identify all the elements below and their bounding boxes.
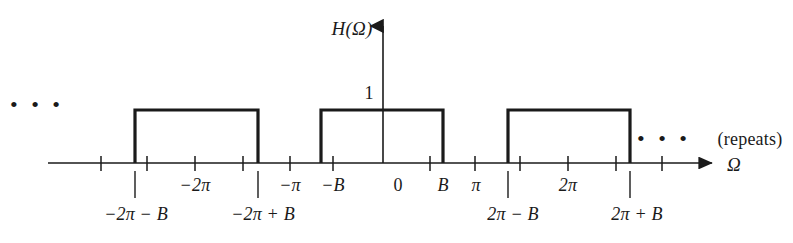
passband-rect-baseband xyxy=(321,110,443,163)
tick-label-origin: 0 xyxy=(393,176,402,194)
passband-rect-plus-2pi xyxy=(508,110,630,163)
tick-label-pi: π xyxy=(471,176,480,194)
tick-label-2pi: 2π xyxy=(559,176,577,194)
y-axis-title: H(Ω) xyxy=(332,19,373,38)
repeats-note: (repeats) xyxy=(718,130,783,148)
amplitude-label-one: 1 xyxy=(364,84,373,102)
passband-rect-minus-2pi xyxy=(135,110,258,163)
frequency-response-figure: H(Ω) Ω 1 −2π −π −B 0 B π 2π −2π − B −2π … xyxy=(0,0,793,243)
tick-label-minus-b: −B xyxy=(321,176,345,194)
tick-label-minus-2pi: −2π xyxy=(180,176,211,194)
ellipsis-left-icon: • • • xyxy=(10,94,64,116)
ellipsis-right-icon: • • • xyxy=(637,128,691,150)
edge-label-2pi-minus-b: 2π − B xyxy=(487,205,538,223)
edge-label-minus-2pi-minus-b: −2π − B xyxy=(104,205,168,223)
edge-label-2pi-plus-b: 2π + B xyxy=(611,205,662,223)
edge-label-minus-2pi-plus-b: −2π + B xyxy=(231,205,295,223)
tick-label-minus-pi: −π xyxy=(279,176,301,194)
x-axis-title: Ω xyxy=(727,155,741,174)
tick-label-b: B xyxy=(437,176,448,194)
